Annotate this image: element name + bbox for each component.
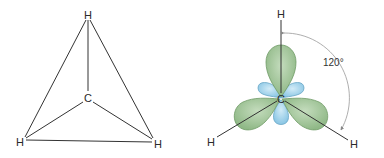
- angle-label: 120°: [323, 57, 344, 68]
- atom-label-bottom-right: H: [350, 138, 358, 150]
- tetrahedron-diagram: H C H H: [16, 9, 162, 150]
- figure: H C H H 120° H C H H: [0, 0, 384, 158]
- atom-label-bottom-left: H: [16, 136, 24, 148]
- atom-label-top: H: [277, 8, 285, 20]
- atom-label-bottom-right: H: [154, 138, 162, 150]
- atom-label-bottom-left: H: [207, 136, 215, 148]
- bond-lines: [25, 20, 153, 142]
- orbital-diagram: 120° H C H H: [207, 8, 358, 150]
- atom-label-center: C: [277, 93, 285, 105]
- atom-label-top: H: [84, 9, 92, 21]
- atom-label-center: C: [84, 92, 92, 104]
